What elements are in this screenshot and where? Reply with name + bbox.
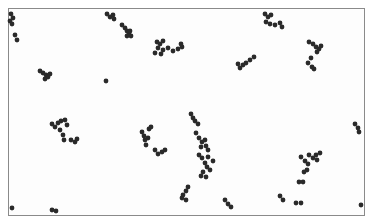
coccus-cell — [229, 205, 234, 210]
coccus-cell — [180, 196, 185, 201]
coccus-cell — [146, 136, 151, 141]
coccus-cell — [359, 203, 364, 208]
coccus-cell — [206, 148, 211, 153]
coccus-cell — [306, 162, 311, 167]
coccus-cell — [211, 159, 216, 164]
coccus-cell — [268, 22, 273, 27]
coccus-cell — [166, 46, 171, 51]
coccus-cell — [302, 170, 307, 175]
coccus-cell — [149, 125, 154, 130]
coccus-cell — [62, 138, 67, 143]
image-frame — [9, 9, 365, 216]
coccus-cell — [356, 126, 361, 131]
coccus-cell — [13, 33, 18, 38]
coccus-cell — [171, 49, 176, 54]
coccus-cell — [353, 122, 358, 127]
coccus-cell — [153, 148, 158, 153]
coccus-cell — [208, 168, 213, 173]
micrograph-scene — [0, 0, 370, 221]
coccus-cell — [312, 67, 317, 72]
coccus-cell — [61, 133, 66, 138]
coccus-cell — [10, 206, 15, 211]
coccus-cell — [53, 125, 58, 130]
coccus-cell — [50, 208, 55, 213]
coccus-cell — [280, 25, 285, 30]
coccus-cell — [197, 136, 202, 141]
coccus-cell — [315, 50, 320, 55]
coccus-cell — [309, 56, 314, 61]
coccus-cell — [315, 158, 320, 163]
coccus-cell — [299, 155, 304, 160]
coccus-cell — [278, 194, 283, 199]
coccus-cell — [112, 17, 117, 22]
coccus-cell — [204, 175, 209, 180]
coccus-cell — [59, 119, 64, 124]
coccus-cell — [199, 145, 204, 150]
coccus-cell — [75, 137, 80, 142]
coccus-cell — [63, 118, 68, 123]
coccus-cell — [128, 29, 133, 34]
coccus-cell — [194, 131, 199, 136]
coccus-cell — [248, 58, 253, 63]
coccus-cell — [319, 44, 324, 49]
coccus-cell — [184, 189, 189, 194]
coccus-cell — [111, 13, 116, 18]
coccus-cell — [203, 138, 208, 143]
coccus-cell — [153, 51, 158, 56]
coccus-cell — [307, 153, 312, 158]
coccus-cell — [301, 180, 306, 185]
coccus-cell — [196, 122, 201, 127]
coccus-cell — [179, 42, 184, 47]
coccus-cell — [15, 38, 20, 43]
coccus-cell — [200, 156, 205, 161]
coccus-cell — [125, 34, 130, 39]
coccus-cell — [10, 22, 15, 27]
coccus-cell — [252, 55, 257, 60]
coccus-cell — [58, 128, 63, 133]
coccus-cell — [104, 79, 109, 84]
coccus-cell — [306, 61, 311, 66]
coccus-cell — [65, 123, 70, 128]
coccus-cell — [294, 201, 299, 206]
coccus-cell — [281, 198, 286, 203]
coccus-cell — [144, 143, 149, 148]
coccus-cell — [244, 61, 249, 66]
coccus-cell — [48, 72, 53, 77]
coccus-cell — [156, 46, 161, 51]
coccus-cell — [269, 13, 274, 18]
coccus-cell — [159, 52, 164, 57]
coccus-cell — [299, 201, 304, 206]
coccus-cell — [236, 62, 241, 67]
coccus-cell — [206, 155, 211, 160]
coccus-cell — [318, 151, 323, 156]
coccus-cell — [357, 130, 362, 135]
coccus-cell — [43, 77, 48, 82]
coccus-cell — [223, 198, 228, 203]
coccus-cell — [163, 148, 168, 153]
coccus-cell — [161, 39, 166, 44]
coccus-cell — [199, 174, 204, 179]
coccus-cell — [273, 23, 278, 28]
coccus-cell — [54, 209, 59, 214]
